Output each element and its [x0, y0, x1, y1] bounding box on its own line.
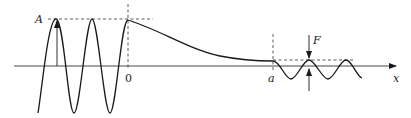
origin-label: 0 — [125, 72, 132, 85]
amplitude-label: A — [34, 13, 43, 26]
x-axis-label: x — [393, 72, 400, 85]
decay-curve — [128, 20, 273, 61]
small-oscillation-curve — [273, 60, 362, 79]
point-a-label: a — [268, 72, 275, 85]
force-label: F — [312, 34, 321, 47]
wave-diagram: x A 0 a F — [0, 0, 411, 118]
